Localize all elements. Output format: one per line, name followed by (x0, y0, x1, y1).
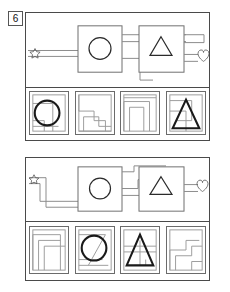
puzzle-panel-1: A B C (25, 12, 210, 141)
option-zigzag-path[interactable]: B (75, 91, 115, 135)
option-bracket-path[interactable]: C (120, 91, 160, 135)
puzzle-2-options: A B C (26, 220, 209, 280)
bracket-path-icon (124, 102, 150, 132)
heart-icon (197, 180, 208, 191)
option-triangle-overlay[interactable]: D (166, 91, 206, 135)
option-triangle-lines[interactable]: C (120, 226, 160, 274)
option-circle-overlay[interactable]: A (29, 91, 69, 135)
puzzle-panel-2: A B C (25, 157, 210, 281)
puzzle-2-stem-diagram (26, 158, 209, 222)
gate-triangle (139, 167, 184, 211)
staircase-path-icon (78, 95, 105, 131)
circle-icon (35, 101, 60, 126)
wire-group-left (28, 50, 78, 56)
star-icon (29, 175, 39, 184)
worksheet-page: 6 (0, 0, 230, 292)
circle-slash-icon (81, 236, 106, 261)
gate-circle (78, 167, 122, 211)
puzzle-1-options: A B C (26, 86, 209, 140)
wire-group-right (184, 185, 198, 192)
option-circle-slash[interactable]: B (75, 226, 115, 274)
gate-triangle (139, 26, 184, 72)
wire-group-right (184, 35, 204, 62)
question-number-badge: 6 (8, 11, 23, 26)
option-nested-corner[interactable]: A (29, 226, 69, 274)
option-step-path[interactable]: D (166, 226, 206, 274)
heart-icon (198, 50, 209, 61)
gate-circle (78, 26, 122, 72)
puzzle-1-stem-diagram (26, 13, 209, 88)
